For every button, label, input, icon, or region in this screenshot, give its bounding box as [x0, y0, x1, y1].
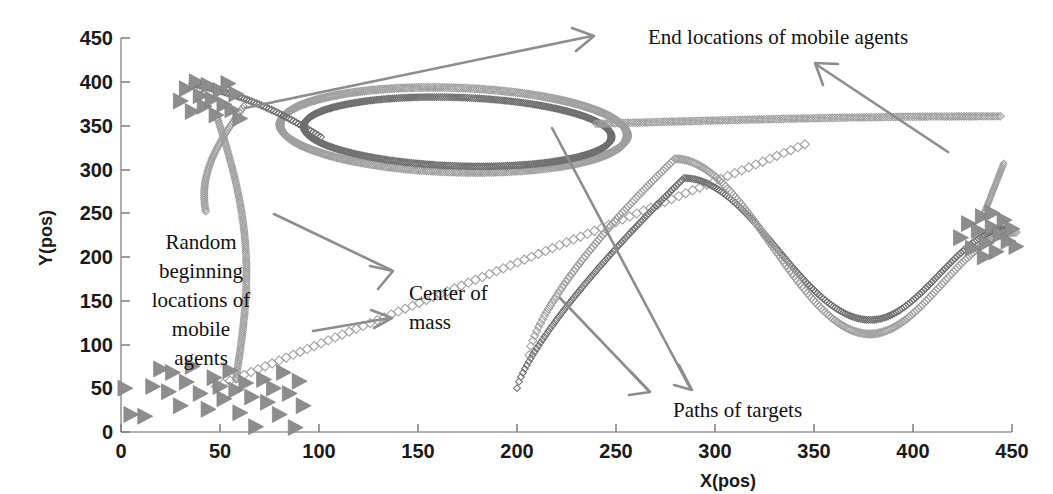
path-marker-diamond [787, 115, 795, 123]
path-marker-diamond [799, 115, 807, 123]
path-marker-diamond [972, 113, 980, 121]
path-marker-diamond [950, 113, 958, 121]
path-marker-diamond [928, 113, 936, 121]
path-marker-diamond [933, 113, 941, 121]
path-marker-diamond [777, 115, 785, 123]
path-marker-diamond [651, 118, 659, 126]
arrow-center-of-mass-upper [274, 214, 393, 289]
path-marker-diamond [514, 385, 521, 392]
path-marker-diamond [741, 116, 749, 124]
path-marker-diamond [870, 113, 878, 121]
path-marker-diamond [712, 117, 720, 125]
annotation-line: mass [409, 310, 451, 334]
path-marker-diamond [773, 115, 781, 123]
path-marker-diamond [678, 118, 686, 126]
path-marker-diamond [685, 117, 693, 125]
path-marker-diamond [751, 116, 759, 124]
y-tick-label: 450 [80, 27, 113, 49]
path-marker-diamond [648, 118, 656, 126]
x-tick-label: 450 [995, 440, 1028, 462]
path-marker-diamond [765, 115, 773, 123]
path-marker-diamond [775, 115, 783, 123]
path-marker-diamond [739, 116, 747, 124]
path-marker-diamond [763, 115, 771, 123]
annotation-line: Random [165, 230, 236, 254]
path-marker-diamond [963, 113, 971, 121]
loop-to-scurve-connector [592, 113, 1004, 128]
annotation-line: agents [174, 346, 228, 370]
y-tick-label: 300 [80, 159, 113, 181]
y-axis-title: Y(pos) [36, 210, 56, 266]
path-marker-diamond [882, 113, 890, 121]
path-marker-diamond [880, 113, 888, 121]
y-tick-label: 200 [80, 246, 113, 268]
path-marker-diamond [707, 117, 715, 125]
annotation-line: mobile [172, 317, 230, 341]
agent-marker-triangle [146, 378, 161, 394]
agent-marker-triangle [124, 406, 139, 422]
scatter-plot-figure: 450 400 350 300 250 200 150 100 50 0 0 5… [0, 0, 1053, 494]
y-tick-label: 400 [80, 71, 113, 93]
path-marker-diamond [924, 113, 932, 121]
y-tick-label: 150 [80, 290, 113, 312]
agent-marker-triangle [118, 380, 133, 396]
path-marker-diamond [834, 114, 842, 122]
path-marker-diamond [636, 119, 644, 127]
path-marker-diamond [919, 113, 927, 121]
path-marker-diamond [753, 116, 761, 124]
path-marker-diamond [977, 113, 985, 121]
path-marker-diamond [865, 113, 873, 121]
path-marker-diamond [646, 118, 654, 126]
path-marker-diamond [807, 114, 815, 122]
agent-marker-triangle [296, 398, 311, 414]
path-marker-diamond [673, 118, 681, 126]
path-marker-diamond [965, 113, 973, 121]
path-marker-diamond [909, 113, 917, 121]
path-marker-diamond [831, 114, 839, 122]
path-marker-diamond [804, 115, 812, 123]
x-tick-labels: 0 50 100 150 200 250 300 350 400 450 [115, 440, 1028, 462]
path-marker-diamond [958, 113, 966, 121]
path-marker-diamond [982, 113, 990, 121]
path-marker-diamond [992, 113, 1000, 121]
path-marker-diamond [838, 114, 846, 122]
agent-marker-triangle [233, 405, 248, 421]
path-marker-diamond [641, 119, 649, 127]
path-marker-diamond [848, 114, 856, 122]
path-marker-diamond [629, 119, 637, 127]
path-marker-diamond [768, 115, 776, 123]
path-marker-diamond [770, 115, 778, 123]
path-marker-diamond [863, 114, 871, 122]
path-marker-diamond [943, 113, 951, 121]
y-tick-label: 100 [80, 334, 113, 356]
path-marker-diamond [851, 114, 859, 122]
path-marker-diamond [997, 113, 1005, 121]
path-marker-diamond [746, 116, 754, 124]
x-tick-label: 250 [599, 440, 632, 462]
path-marker-diamond [675, 118, 683, 126]
path-marker-diamond [829, 114, 837, 122]
plot-svg: 450 400 350 300 250 200 150 100 50 0 0 5… [0, 0, 1053, 494]
y-tick-marks [121, 38, 130, 432]
path-marker-diamond [702, 117, 710, 125]
path-marker-diamond [819, 114, 827, 122]
path-marker-diamond [743, 116, 751, 124]
path-marker-diamond [931, 113, 939, 121]
path-marker-diamond [860, 114, 868, 122]
path-marker-diamond [948, 113, 956, 121]
path-marker-diamond [639, 119, 647, 127]
path-marker-diamond [904, 113, 912, 121]
path-marker-diamond [658, 118, 666, 126]
x-axis-title: X(pos) [700, 471, 756, 491]
annotation-arrows [245, 28, 948, 395]
path-marker-diamond [911, 113, 919, 121]
path-marker-diamond [692, 117, 700, 125]
path-marker-diamond [841, 114, 849, 122]
agent-marker-triangle [201, 401, 216, 417]
path-marker-diamond [902, 113, 910, 121]
path-marker-diamond [989, 113, 997, 121]
agent-marker-triangle [1009, 238, 1024, 254]
path-marker-diamond [780, 115, 788, 123]
path-marker-diamond [790, 115, 798, 123]
s-curve-agents-path [525, 155, 1020, 359]
